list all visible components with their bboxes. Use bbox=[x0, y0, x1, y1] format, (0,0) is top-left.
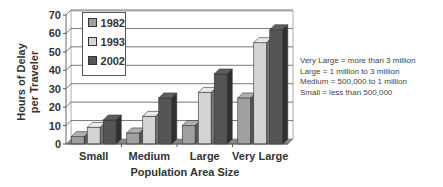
bar-large-1993 bbox=[198, 87, 216, 144]
bar-medium-1993 bbox=[143, 111, 161, 144]
bar-small-1993 bbox=[87, 122, 105, 144]
y-tick-label: 10 bbox=[49, 120, 61, 132]
x-axis-title: Population Area Size bbox=[130, 166, 239, 178]
legend-label: 2002 bbox=[101, 55, 125, 67]
legend: 1982 1993 2002 bbox=[82, 12, 126, 76]
y-axis-title-line2: per Traveler bbox=[28, 50, 40, 113]
bar-small-2002 bbox=[103, 115, 121, 144]
bar-medium-2002 bbox=[159, 93, 177, 144]
y-tick-label: 0 bbox=[55, 138, 61, 150]
legend-swatch-2002 bbox=[88, 56, 97, 65]
note-small: Small = less than 500,000 bbox=[300, 88, 415, 99]
y-tick-label: 70 bbox=[49, 9, 61, 21]
legend-item-2002: 2002 bbox=[83, 51, 125, 70]
bar-very-large-2002 bbox=[270, 25, 288, 144]
x-axis-categories: SmallMediumLargeVery Large bbox=[66, 144, 288, 162]
bar-very-large-1982 bbox=[238, 93, 256, 144]
bar-medium-1982 bbox=[127, 128, 145, 144]
x-category-label: Very Large bbox=[232, 150, 288, 162]
bar-large-2002 bbox=[214, 69, 232, 144]
legend-item-1982: 1982 bbox=[83, 13, 125, 32]
x-category-label: Medium bbox=[128, 150, 170, 162]
note-large: Large = 1 million to 3 million bbox=[300, 67, 415, 78]
bar-very-large-1993 bbox=[254, 38, 272, 144]
y-tick-label: 40 bbox=[49, 64, 61, 76]
y-tick-label: 30 bbox=[49, 83, 61, 95]
y-tick-label: 60 bbox=[49, 27, 61, 39]
y-tick-label: 50 bbox=[49, 46, 61, 58]
legend-swatch-1993 bbox=[88, 37, 97, 46]
note-medium: Medium = 500,000 to 1 million bbox=[300, 77, 415, 88]
legend-label: 1993 bbox=[101, 36, 125, 48]
size-definitions-note: Very Large = more than 3 million Large =… bbox=[300, 56, 415, 98]
legend-swatch-1982 bbox=[88, 18, 97, 27]
y-axis-title-line1: Hours of Delay bbox=[15, 42, 27, 121]
note-very-large: Very Large = more than 3 million bbox=[300, 56, 415, 67]
legend-label: 1982 bbox=[101, 17, 125, 29]
x-category-label: Large bbox=[190, 150, 220, 162]
legend-item-1993: 1993 bbox=[83, 32, 125, 51]
y-axis-ticks: 010203040506070 bbox=[49, 9, 66, 150]
x-category-label: Small bbox=[79, 150, 108, 162]
bar-large-1982 bbox=[182, 121, 200, 144]
y-tick-label: 20 bbox=[49, 101, 61, 113]
